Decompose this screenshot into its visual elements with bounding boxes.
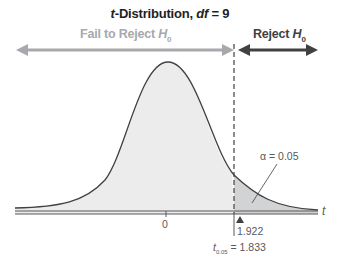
critical-value-label: t0.05 = 1.833 bbox=[213, 241, 266, 255]
t-axis-label: t bbox=[322, 204, 325, 218]
tick-zero-label: 0 bbox=[162, 218, 168, 230]
t-distribution-plot bbox=[0, 0, 340, 260]
alpha-label: α = 0.05 bbox=[260, 150, 298, 162]
rejection-area bbox=[234, 175, 318, 214]
test-statistic-label: 1.922 bbox=[237, 225, 263, 237]
test-statistic-marker bbox=[236, 216, 244, 223]
fail-to-reject-arrow bbox=[16, 44, 234, 56]
reject-arrow bbox=[238, 44, 318, 56]
